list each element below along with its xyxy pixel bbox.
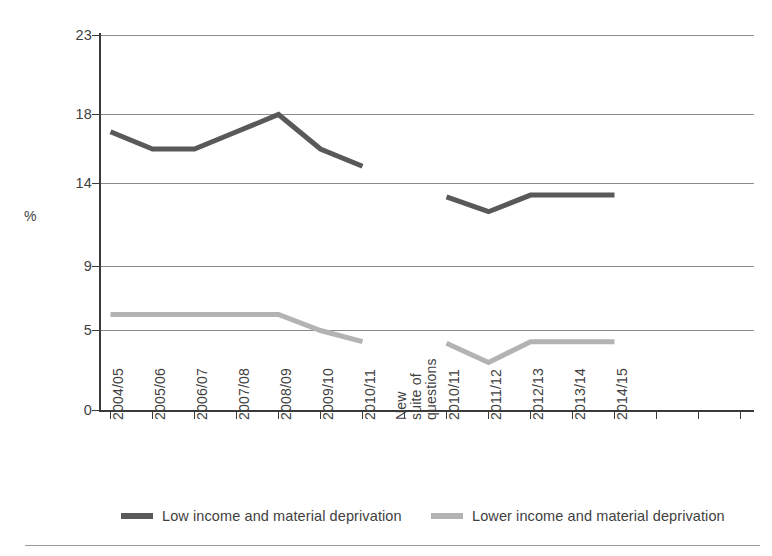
chart-figure: % 23 18 14 9 5 0 2004/05 2005/06 2006/07… bbox=[0, 0, 772, 556]
bottom-divider bbox=[25, 545, 760, 546]
legend-swatch-lower-income bbox=[431, 513, 463, 519]
legend-swatch-low-income bbox=[121, 513, 153, 519]
legend-label-lower-income: Lower income and material deprivation bbox=[472, 508, 725, 524]
chart-legend: Low income and material deprivation Lowe… bbox=[0, 508, 772, 532]
break-line-2: suite of bbox=[409, 358, 424, 420]
legend-item-low-income[interactable]: Low income and material deprivation bbox=[121, 508, 402, 524]
break-line-3: questions bbox=[424, 358, 439, 420]
legend-item-lower-income[interactable]: Lower income and material deprivation bbox=[431, 508, 725, 524]
break-line-1: New bbox=[394, 358, 409, 420]
x-axis-tick-labels: 2004/05 2005/06 2006/07 2007/08 2008/09 … bbox=[0, 0, 772, 556]
legend-label-low-income: Low income and material deprivation bbox=[162, 508, 402, 524]
